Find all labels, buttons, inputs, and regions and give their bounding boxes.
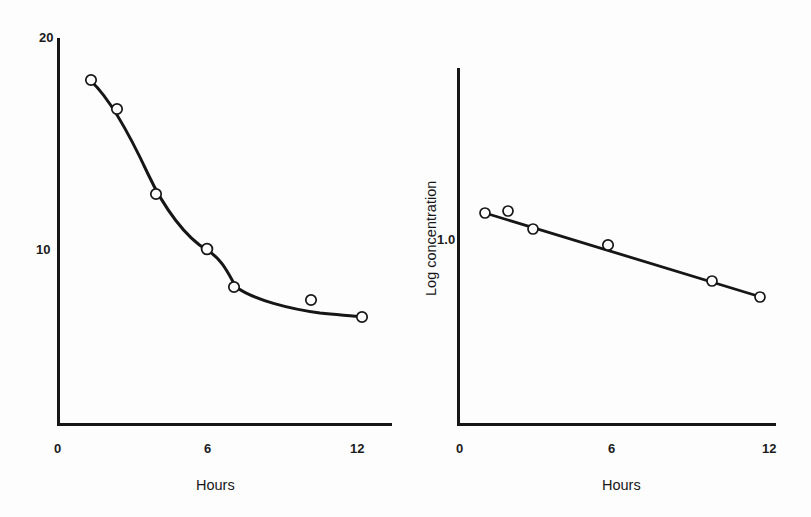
- data-point-marker: [480, 208, 490, 218]
- x-axis-tick-label-0: 0: [456, 442, 463, 455]
- y-axis-tick-label-1-0: 1.0: [437, 233, 455, 246]
- figure-canvas: 20 10 0 6 12 Hours 1.0 0: [0, 0, 811, 517]
- log-plot-graphics: [405, 0, 811, 517]
- x-axis-title-right: Hours: [602, 478, 641, 493]
- data-point-marker: [707, 276, 717, 286]
- y-axis-tick-label-20: 20: [39, 31, 54, 44]
- x-axis-tick-label-12: 12: [762, 442, 777, 455]
- log-concentration-plot-panel: 1.0 0 6 12 Hours Log concentration: [405, 0, 811, 517]
- fitted-regression-line-right: [485, 213, 761, 297]
- data-point-marker: [357, 312, 367, 322]
- data-point-marker: [86, 75, 96, 85]
- linear-plot-graphics: [0, 0, 405, 517]
- y-axis-title-right: Log concentration: [424, 181, 439, 296]
- data-point-marker: [755, 292, 765, 302]
- data-point-marker: [229, 282, 239, 292]
- data-point-marker: [151, 189, 161, 199]
- linear-concentration-plot-panel: 20 10 0 6 12 Hours: [0, 0, 405, 517]
- x-axis-tick-label-6: 6: [608, 442, 615, 455]
- x-axis-tick-label-12: 12: [350, 442, 365, 455]
- data-point-marker: [112, 104, 122, 114]
- y-axis-tick-label-10: 10: [36, 243, 51, 256]
- x-axis-tick-label-6: 6: [204, 442, 211, 455]
- data-point-marker: [202, 244, 213, 255]
- fitted-decay-curve-left: [91, 81, 362, 317]
- x-axis-title-left: Hours: [196, 478, 235, 493]
- data-point-marker: [503, 206, 513, 216]
- x-axis-tick-label-0: 0: [54, 442, 61, 455]
- data-point-marker: [528, 224, 538, 234]
- data-point-marker: [306, 295, 316, 305]
- data-point-markers-left: [86, 75, 367, 322]
- data-point-marker: [603, 240, 613, 250]
